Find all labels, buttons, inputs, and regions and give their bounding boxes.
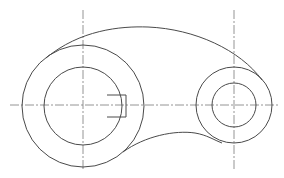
upper-connecting-arc — [46, 27, 262, 80]
technical-drawing — [0, 0, 284, 178]
keyway — [107, 95, 126, 117]
lower-connecting-curve — [123, 132, 222, 152]
